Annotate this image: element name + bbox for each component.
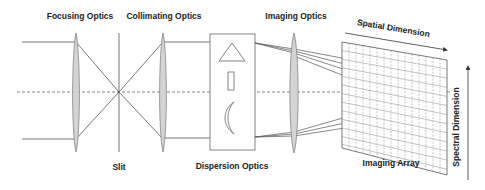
label-collimating-optics: Collimating Optics: [126, 11, 201, 21]
collimating-lens: [160, 33, 167, 152]
focusing-lens: [73, 33, 80, 152]
label-slit: Slit: [112, 162, 125, 172]
label-spatial-dimension: Spatial Dimension: [356, 17, 430, 39]
label-dispersion-optics: Dispersion Optics: [196, 161, 269, 171]
imaging-array-grid: [342, 42, 447, 175]
dispersion-optics-box: [210, 34, 255, 150]
spectrometer-diagram: Focusing Optics Collimating Optics Imagi…: [0, 0, 485, 190]
label-imaging-array: Imaging Array: [363, 158, 420, 168]
imaging-lens: [290, 33, 298, 153]
label-imaging-optics: Imaging Optics: [265, 11, 327, 21]
input-rays: [22, 42, 210, 139]
label-focusing-optics: Focusing Optics: [47, 11, 114, 21]
label-spectral-dimension: Spectral Dimension: [451, 87, 461, 166]
